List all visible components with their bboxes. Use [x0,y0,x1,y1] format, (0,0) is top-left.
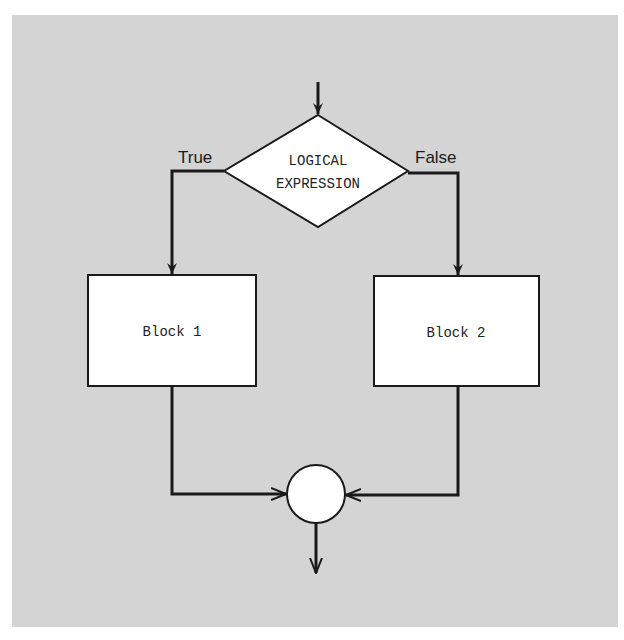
block-1-to-join-connector [172,386,286,494]
block-2-to-join-connector [346,386,458,495]
block-1-label: Block 1 [143,324,202,340]
false-label: False [415,148,457,167]
false-branch-connector [408,173,458,275]
join-circle [287,465,345,523]
block-2-label: Block 2 [427,325,486,341]
decision-text-line2: EXPRESSION [276,176,360,192]
decision-text-line1: LOGICAL [289,153,348,169]
flowchart: LOGICAL EXPRESSION True False Block 1 Bl… [0,0,624,640]
block-2: Block 2 [374,276,539,386]
block-1: Block 1 [88,275,256,386]
true-label: True [178,148,212,167]
true-branch-connector [172,171,224,274]
decision-diamond: LOGICAL EXPRESSION [224,115,408,227]
